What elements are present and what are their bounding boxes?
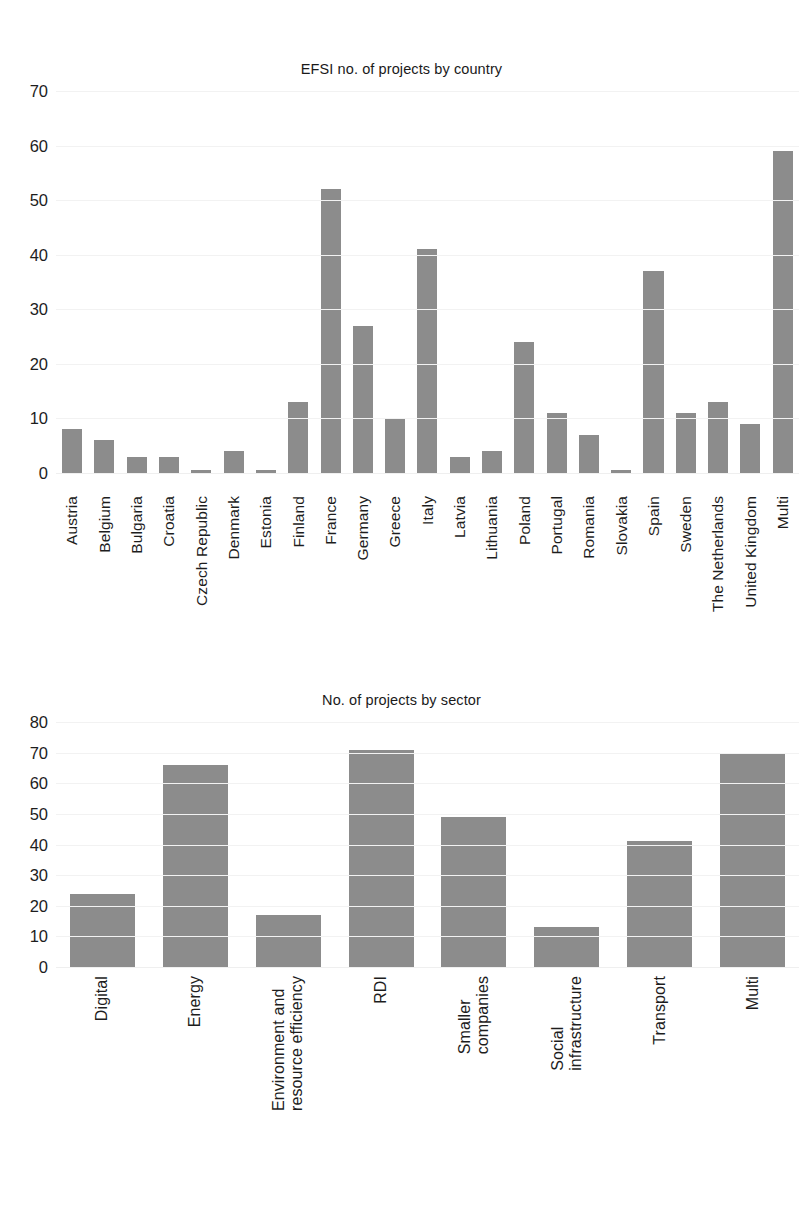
bar (450, 457, 470, 473)
bar-slot (767, 91, 799, 473)
x-axis-label-slot: Greece (379, 496, 411, 612)
y-axis-tick-label: 50 (30, 804, 48, 823)
x-axis-tick-label: United Kingdom (742, 496, 759, 608)
x-axis-tick-label: The Netherlands (709, 496, 726, 612)
gridline (56, 200, 799, 201)
y-axis-tick-label: 20 (30, 354, 48, 373)
bar (385, 418, 405, 473)
gridline (56, 309, 799, 310)
bar (224, 451, 244, 473)
x-axis-label-slot: Multi (767, 496, 799, 612)
x-axis-label-slot: Environment and resource efficiency (242, 976, 335, 1111)
bar-slot (605, 91, 637, 473)
x-axis-tick-label: Social infrastructure (549, 976, 585, 1071)
bar-slot (153, 91, 185, 473)
bar (720, 753, 785, 967)
bar (321, 189, 341, 473)
x-axis-label-slot: Bulgaria (121, 496, 153, 612)
bar-slot (217, 91, 249, 473)
bar-slot (573, 91, 605, 473)
x-axis-label-slot: RDI (335, 976, 428, 1111)
bar (547, 413, 567, 473)
x-axis-tick-label: Austria (63, 496, 80, 545)
bar-slot (379, 91, 411, 473)
bar-slot (121, 91, 153, 473)
x-axis-label-slot: Finland (282, 496, 314, 612)
gridline (56, 91, 799, 92)
y-axis-tick-label: 30 (30, 866, 48, 885)
x-axis-label-slot: Spain (637, 496, 669, 612)
bar (288, 402, 308, 473)
x-axis-tick-label: Romania (580, 496, 597, 559)
x-axis-label-slot: Italy (411, 496, 443, 612)
bar-slot (185, 91, 217, 473)
bar (514, 342, 534, 473)
x-axis-tick-label: Denmark (225, 496, 242, 560)
x-axis-tick-label: RDI (372, 976, 390, 1004)
gridline (56, 255, 799, 256)
bar (579, 435, 599, 473)
bar (627, 841, 692, 967)
bar-slot (282, 91, 314, 473)
y-axis-tick-label: 30 (30, 300, 48, 319)
x-axis-tick-label: Sweden (677, 496, 694, 553)
bar (70, 894, 135, 968)
x-axis-label-slot: Sweden (670, 496, 702, 612)
x-axis-tick-label: Latvia (451, 496, 468, 538)
x-axis-tick-label: Estonia (257, 496, 274, 548)
bar-slot (540, 91, 572, 473)
x-axis-label-slot: Slovakia (605, 496, 637, 612)
x-axis-label-slot: Poland (508, 496, 540, 612)
x-axis-label-slot: Latvia (444, 496, 476, 612)
x-axis-tick-label: Lithuania (483, 496, 500, 560)
y-axis-tick-label: 10 (30, 927, 48, 946)
bar-slot (411, 91, 443, 473)
chart-title: No. of projects by sector (0, 670, 803, 708)
bar-slot (637, 91, 669, 473)
x-axis-label-slot: United Kingdom (734, 496, 766, 612)
y-axis-tick-label: 70 (30, 743, 48, 762)
x-axis-tick-label: Belgium (96, 496, 113, 553)
gridline (56, 783, 799, 784)
gridline (56, 364, 799, 365)
x-axis-label-slot: Portugal (540, 496, 572, 612)
gridline (56, 418, 799, 419)
x-axis-tick-label: Slovakia (613, 496, 630, 555)
x-axis-tick-label: Smaller companies (456, 976, 492, 1054)
x-axis-tick-label: France (322, 496, 339, 545)
x-axis-tick-label: Finland (290, 496, 307, 548)
y-axis-tick-label: 70 (30, 82, 48, 101)
x-axis-label-slot: Transport (613, 976, 706, 1111)
x-axis-tick-label: Transport (651, 976, 669, 1045)
x-axis-tick-label: Portugal (548, 496, 565, 555)
plot-area-country: 010203040506070 (0, 91, 803, 473)
y-axis-tick-label: 80 (30, 713, 48, 732)
bar (349, 750, 414, 967)
plot-area-sector: 01020304050607080 (0, 722, 803, 967)
bar-slot (670, 91, 702, 473)
y-axis-tick-label: 60 (30, 136, 48, 155)
x-axis-tick-label: Bulgaria (128, 496, 145, 554)
y-axis-tick-label: 40 (30, 835, 48, 854)
bar (740, 424, 760, 473)
x-axis-label-slot: Energy (149, 976, 242, 1111)
x-axis-label-slot: Belgium (88, 496, 120, 612)
x-axis-tick-label: Czech Republic (193, 496, 210, 606)
chart-title: EFSI no. of projects by country (0, 0, 803, 77)
chart-projects-by-sector: No. of projects by sector 01020304050607… (0, 670, 803, 1206)
bar (94, 440, 114, 473)
x-axis-tick-label: Multi (744, 976, 762, 1010)
bar (159, 457, 179, 473)
gridline (56, 936, 799, 937)
bar-slot (347, 91, 379, 473)
x-axis-country: AustriaBelgiumBulgariaCroatiaCzech Repub… (56, 496, 799, 612)
y-axis-tick-label: 0 (39, 464, 48, 483)
x-axis-tick-label: Digital (93, 976, 111, 1021)
x-axis-label-slot: Multi (706, 976, 799, 1111)
bar (534, 927, 599, 967)
x-axis-label-slot: Estonia (250, 496, 282, 612)
y-axis-sector: 01020304050607080 (0, 722, 56, 967)
gridline (56, 906, 799, 907)
gridline (56, 875, 799, 876)
x-axis-label-slot: Romania (573, 496, 605, 612)
